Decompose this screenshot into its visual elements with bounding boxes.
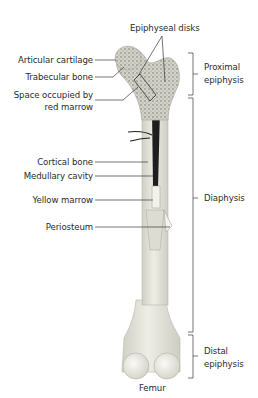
femoral-head xyxy=(115,46,141,70)
label-epiphyseal-disks: Epiphyseal disks xyxy=(130,23,200,33)
label-medullary-cavity: Medullary cavity xyxy=(24,171,93,181)
label-red-marrow-line1: Space occupied by xyxy=(14,90,93,100)
label-distal-line2: epiphysis xyxy=(204,359,244,369)
label-trabecular-bone: Trabecular bone xyxy=(25,72,93,82)
label-periosteum: Periosteum xyxy=(46,222,93,232)
label-distal-line1: Distal xyxy=(204,346,228,356)
label-red-marrow-line2: red marrow xyxy=(45,102,93,112)
label-cortical-bone: Cortical bone xyxy=(37,157,93,167)
label-proximal-line1: Proximal xyxy=(204,62,240,72)
diagram-title: Femur xyxy=(139,383,166,393)
label-diaphysis: Diaphysis xyxy=(204,193,245,203)
label-articular-cartilage: Articular cartilage xyxy=(18,55,93,65)
lateral-condyle xyxy=(154,353,180,379)
yellow-marrow xyxy=(152,186,160,208)
label-proximal-line2: epiphysis xyxy=(204,75,244,85)
medial-condyle xyxy=(123,353,149,379)
label-yellow-marrow: Yellow marrow xyxy=(32,195,93,205)
